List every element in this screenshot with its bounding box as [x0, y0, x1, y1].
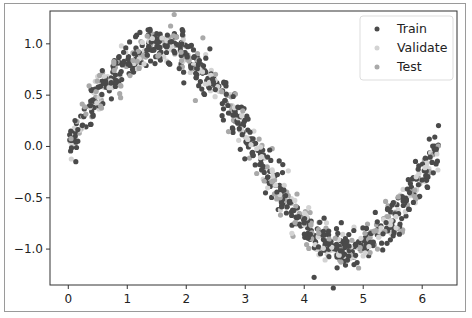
data-point-train — [191, 47, 196, 52]
data-point-train — [188, 65, 193, 70]
data-point-validate — [337, 253, 342, 258]
data-point-test — [316, 231, 321, 236]
data-point-train — [391, 200, 396, 205]
data-point-test — [240, 108, 245, 113]
data-point-train — [274, 189, 279, 194]
data-point-test — [327, 237, 332, 242]
data-point-validate — [140, 40, 145, 45]
data-point-train — [73, 159, 78, 164]
data-point-test — [254, 171, 259, 176]
x-axis-ticks: 0123456 — [64, 285, 426, 306]
data-point-train — [127, 63, 132, 68]
data-point-train — [119, 77, 124, 82]
legend-marker-train — [375, 27, 380, 32]
data-point-test — [293, 204, 298, 209]
data-point-train — [420, 177, 425, 182]
data-point-validate — [378, 225, 383, 230]
data-point-train — [397, 232, 402, 237]
data-point-train — [91, 113, 96, 118]
data-point-train — [145, 53, 150, 58]
data-point-test — [362, 231, 367, 236]
data-point-train — [283, 193, 288, 198]
data-point-test — [168, 23, 173, 28]
data-point-test — [333, 236, 338, 241]
x-tick-label: 1 — [123, 292, 131, 306]
data-point-train — [88, 103, 93, 108]
x-tick-label: 6 — [418, 292, 426, 306]
data-point-train — [322, 216, 327, 221]
data-point-train — [384, 220, 389, 225]
data-point-train — [335, 265, 340, 270]
data-point-test — [349, 238, 354, 243]
data-point-train — [434, 147, 439, 152]
data-point-train — [123, 45, 128, 50]
data-point-validate — [289, 231, 294, 236]
data-point-train — [231, 94, 236, 99]
data-point-train — [326, 229, 331, 234]
data-point-validate — [323, 257, 328, 262]
data-point-train — [181, 80, 186, 85]
data-point-train — [343, 236, 348, 241]
data-point-train — [137, 30, 142, 35]
data-point-train — [230, 113, 235, 118]
data-point-train — [318, 251, 323, 256]
data-point-train — [156, 45, 161, 50]
data-point-train — [431, 170, 436, 175]
data-point-train — [74, 145, 79, 150]
data-point-train — [284, 210, 289, 215]
data-point-train — [346, 254, 351, 259]
data-point-train — [397, 221, 402, 226]
data-point-test — [82, 104, 87, 109]
data-point-train — [373, 210, 378, 215]
data-point-validate — [258, 145, 263, 150]
data-point-test — [365, 222, 370, 227]
data-point-validate — [434, 151, 439, 156]
data-point-train — [179, 41, 184, 46]
data-point-test — [338, 260, 343, 265]
data-point-test — [135, 59, 140, 64]
data-point-test — [372, 229, 377, 234]
data-point-train — [202, 92, 207, 97]
data-point-train — [117, 72, 122, 77]
data-point-train — [120, 62, 125, 67]
data-point-test — [213, 72, 218, 77]
data-point-train — [355, 260, 360, 265]
data-point-train — [237, 126, 242, 131]
data-point-train — [346, 232, 351, 237]
data-point-train — [428, 155, 433, 160]
data-point-validate — [213, 94, 218, 99]
data-point-validate — [358, 236, 363, 241]
data-point-test — [112, 68, 117, 73]
data-point-train — [262, 170, 267, 175]
data-point-train — [251, 153, 256, 158]
data-point-validate — [321, 246, 326, 251]
data-point-train — [321, 229, 326, 234]
data-point-train — [167, 61, 172, 66]
data-point-train — [75, 127, 80, 132]
data-point-test — [412, 187, 417, 192]
data-point-validate — [150, 36, 155, 41]
data-point-train — [240, 132, 245, 137]
data-point-train — [114, 78, 119, 83]
data-point-train — [267, 147, 272, 152]
data-point-train — [113, 84, 118, 89]
data-point-train — [109, 96, 114, 101]
data-point-train — [148, 58, 153, 63]
data-point-train — [302, 220, 307, 225]
y-tick-label: −1.0 — [14, 242, 43, 256]
data-point-train — [195, 66, 200, 71]
data-point-train — [220, 101, 225, 106]
data-point-train — [168, 39, 173, 44]
data-point-train — [181, 70, 186, 75]
data-point-test — [269, 179, 274, 184]
data-point-train — [263, 190, 268, 195]
data-point-test — [274, 196, 279, 201]
data-point-train — [175, 42, 180, 47]
data-point-train — [401, 199, 406, 204]
data-point-train — [280, 162, 285, 167]
data-point-validate — [107, 85, 112, 90]
data-point-validate — [393, 214, 398, 219]
data-point-train — [147, 28, 152, 33]
data-point-test — [97, 73, 102, 78]
data-point-test — [278, 213, 283, 218]
